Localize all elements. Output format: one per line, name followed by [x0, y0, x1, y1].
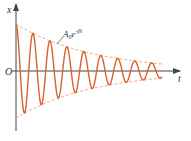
damped-oscillation-diagram: x t O A0e-βt [0, 0, 191, 141]
x-axis-label: t [178, 73, 181, 84]
origin-label: O [5, 66, 12, 77]
envelope-label: A0e-βt [62, 28, 82, 40]
envelope-upper [16, 24, 162, 64]
oscillation-curve [16, 24, 162, 113]
y-axis-label: x [6, 4, 12, 15]
